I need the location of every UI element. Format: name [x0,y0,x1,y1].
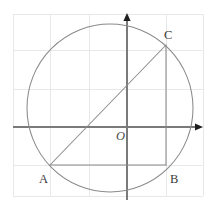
vertex-label-c: C [164,28,172,42]
x-axis-arrow-icon [195,123,203,130]
circumscribed-circle [27,24,193,192]
triangle-edge-ca [50,45,166,165]
vertex-label-a: A [39,172,48,186]
origin-label: O [116,129,125,143]
triangle-abc [50,45,166,165]
figure-canvas: O A B C [0,0,212,209]
vertex-label-b: B [170,172,178,186]
geometry-figure: O A B C [0,0,212,209]
